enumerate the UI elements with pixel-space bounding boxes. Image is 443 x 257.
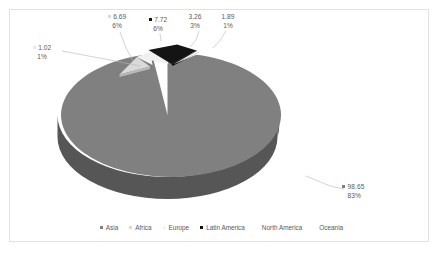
pie-slice-asia-top [61, 53, 281, 177]
legend-item-asia[interactable]: Asia [100, 224, 118, 231]
legend-marker-north-america [256, 226, 259, 229]
data-label-latin-america: 7.72 6% [140, 16, 176, 33]
legend-marker-africa [129, 226, 132, 229]
leader-line-asia [306, 176, 344, 189]
pie-chart-graphic [0, 0, 443, 257]
legend-item-north-america[interactable]: North America [256, 224, 302, 231]
legend-label-asia: Asia [106, 224, 118, 231]
data-label-africa: 6.69 6% [100, 13, 134, 30]
legend-item-latin-america[interactable]: Latin America [200, 224, 245, 231]
leader-line-oceania [213, 31, 226, 48]
leader-line-north-america [190, 31, 199, 47]
legend-marker-latin-america [200, 226, 203, 229]
legend-item-europe[interactable]: Europe [163, 224, 190, 231]
data-label-europe: 1.02 1% [22, 44, 62, 61]
legend-marker-oceania [313, 226, 316, 229]
legend-label-north-america: North America [262, 224, 303, 231]
legend-label-latin-america: Latin America [206, 224, 245, 231]
legend-label-europe: Europe [169, 224, 190, 231]
square-marker-europe [33, 46, 36, 49]
legend-label-oceania: Oceania [319, 224, 343, 231]
legend-label-africa: Africa [135, 224, 151, 231]
chart-legend: Asia Africa Europe Latin America North A… [0, 224, 443, 231]
square-marker-latin-america [149, 18, 152, 21]
leader-line-latin-america [160, 34, 161, 42]
data-label-asia: 98.65 83% [342, 183, 402, 200]
legend-marker-asia [100, 226, 103, 229]
legend-marker-europe [163, 226, 166, 229]
data-label-north-america: 3.26 3% [180, 13, 210, 30]
legend-item-africa[interactable]: Africa [129, 224, 151, 231]
legend-item-oceania[interactable]: Oceania [313, 224, 343, 231]
square-marker-africa [108, 15, 111, 18]
square-marker-asia [342, 185, 345, 188]
data-label-oceania: 1.89 1% [214, 13, 242, 30]
leader-line-africa [120, 32, 133, 61]
